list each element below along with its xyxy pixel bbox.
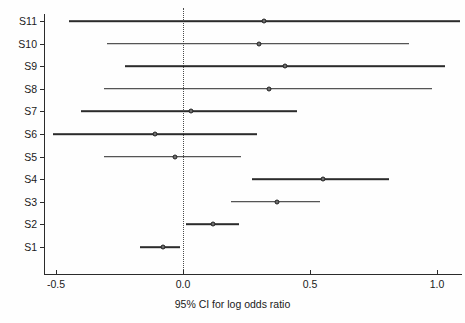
estimate-marker-s3 xyxy=(274,199,279,204)
estimate-marker-s11 xyxy=(262,19,267,24)
estimate-marker-s6 xyxy=(153,132,158,137)
reference-line-zero xyxy=(183,8,184,274)
estimate-marker-s4 xyxy=(320,177,325,182)
x-tick-label: 0.0 xyxy=(176,279,191,290)
estimate-marker-s7 xyxy=(188,109,193,114)
x-tick-label: -0.5 xyxy=(47,279,65,290)
y-tick xyxy=(40,111,44,112)
x-tick xyxy=(437,270,438,274)
estimate-marker-s5 xyxy=(173,154,178,159)
y-tick xyxy=(40,179,44,180)
y-tick xyxy=(40,202,44,203)
y-tick-label-s1: S1 xyxy=(24,242,37,253)
y-tick-label-s11: S11 xyxy=(19,16,37,27)
y-tick xyxy=(40,21,44,22)
estimate-marker-s2 xyxy=(211,222,216,227)
y-axis-line xyxy=(44,14,45,274)
x-axis-title: 95% CI for log odds ratio xyxy=(0,298,465,310)
estimate-marker-s10 xyxy=(257,41,262,46)
y-tick-label-s3: S3 xyxy=(24,196,37,207)
y-tick-label-s10: S10 xyxy=(18,38,37,49)
x-tick xyxy=(56,270,57,274)
y-tick-label-s7: S7 xyxy=(24,106,37,117)
y-tick-label-s2: S2 xyxy=(24,219,37,230)
y-tick-label-s5: S5 xyxy=(24,151,37,162)
forest-plot-figure: 95% CI for log odds ratio -0.50.00.51.0S… xyxy=(0,0,465,323)
x-tick-label: 1.0 xyxy=(430,279,445,290)
y-tick xyxy=(40,224,44,225)
estimate-marker-s8 xyxy=(267,86,272,91)
x-axis-line xyxy=(44,274,462,275)
estimate-marker-s1 xyxy=(160,245,165,250)
y-tick-label-s4: S4 xyxy=(24,174,37,185)
y-tick xyxy=(40,44,44,45)
y-tick xyxy=(40,247,44,248)
y-tick xyxy=(40,134,44,135)
x-tick xyxy=(183,270,184,274)
y-tick xyxy=(40,89,44,90)
y-tick xyxy=(40,66,44,67)
y-tick-label-s6: S6 xyxy=(24,129,37,140)
y-tick-label-s9: S9 xyxy=(24,61,37,72)
x-tick-label: 0.5 xyxy=(303,279,318,290)
x-tick xyxy=(310,270,311,274)
estimate-marker-s9 xyxy=(282,64,287,69)
plot-area: 95% CI for log odds ratio -0.50.00.51.0S… xyxy=(0,0,465,323)
y-tick xyxy=(40,157,44,158)
y-tick-label-s8: S8 xyxy=(24,83,37,94)
